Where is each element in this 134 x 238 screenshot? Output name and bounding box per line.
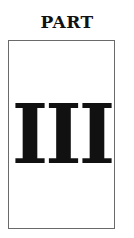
part-heading: PART <box>0 12 134 32</box>
part-numeral: III <box>12 93 112 175</box>
part-number-frame: III <box>8 40 115 229</box>
